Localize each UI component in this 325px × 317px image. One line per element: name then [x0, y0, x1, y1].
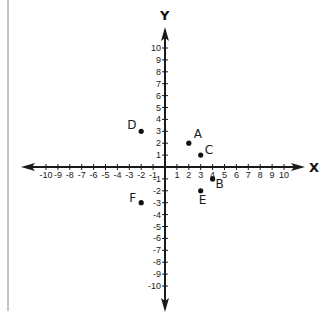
y-tick-label: 9 — [156, 55, 161, 65]
coordinate-plane-figure: -10-9-8-7-6-5-4-3-2-112345678910-10-9-8-… — [0, 0, 325, 317]
point-f: F — [129, 191, 144, 206]
x-tick-label: 7 — [246, 170, 251, 180]
x-tick-label: 3 — [198, 170, 203, 180]
y-tick-label: -2 — [153, 186, 161, 196]
y-tick-label: -1 — [153, 174, 161, 184]
y-tick-label: 1 — [156, 150, 161, 160]
x-tick-label: 2 — [186, 170, 191, 180]
y-tick-label: 4 — [156, 114, 161, 124]
x-axis-title: X — [309, 160, 319, 175]
y-tick-label: -7 — [153, 245, 161, 255]
y-axis-title: Y — [159, 8, 170, 23]
point-label: B — [216, 177, 224, 191]
y-tick-label: -8 — [153, 257, 161, 267]
y-tick-label: 5 — [156, 103, 161, 113]
y-tick-label: 3 — [156, 126, 161, 136]
x-tick-label: -6 — [90, 170, 98, 180]
y-tick-label: -5 — [153, 222, 161, 232]
point-b: B — [210, 176, 224, 191]
x-tick-label: 9 — [270, 170, 275, 180]
point-e: E — [198, 188, 206, 207]
x-tick-label: -10 — [39, 170, 52, 180]
plotted-points: ABCDEF — [127, 118, 224, 207]
y-tick-label: -6 — [153, 233, 161, 243]
y-tick-label: 2 — [156, 138, 161, 148]
point-label: F — [129, 191, 136, 205]
x-tick-label: 6 — [234, 170, 239, 180]
point-c: C — [198, 143, 213, 158]
y-tick-label: 8 — [156, 67, 161, 77]
y-tick-label: -3 — [153, 198, 161, 208]
point-label: A — [194, 127, 203, 141]
x-tick-label: -7 — [78, 170, 86, 180]
coordinate-plane: -10-9-8-7-6-5-4-3-2-112345678910-10-9-8-… — [0, 0, 325, 317]
x-tick-label: -4 — [113, 170, 121, 180]
point-dot-icon — [210, 176, 215, 181]
point-d: D — [127, 118, 144, 134]
point-dot-icon — [139, 200, 144, 205]
x-tick-label: 1 — [174, 170, 179, 180]
x-tick-label: 10 — [279, 170, 289, 180]
point-dot-icon — [198, 153, 203, 158]
y-tick-label: 7 — [156, 79, 161, 89]
x-tick-label: -5 — [101, 170, 109, 180]
x-tick-label: -9 — [54, 170, 62, 180]
x-tick-label: -2 — [137, 170, 145, 180]
point-dot-icon — [139, 129, 144, 134]
point-label: E — [199, 193, 207, 207]
point-a: A — [186, 127, 203, 146]
y-tick-label: -9 — [153, 269, 161, 279]
point-dot-icon — [186, 141, 191, 146]
y-tick-label: 6 — [156, 91, 161, 101]
point-label: D — [127, 118, 136, 132]
y-tick-label: -10 — [148, 281, 161, 291]
point-label: C — [205, 143, 213, 157]
x-tick-label: -3 — [125, 170, 133, 180]
y-tick-label: -4 — [153, 210, 161, 220]
x-tick-label: -8 — [66, 170, 74, 180]
x-tick-label: 8 — [258, 170, 263, 180]
y-tick-label: 10 — [151, 43, 161, 53]
